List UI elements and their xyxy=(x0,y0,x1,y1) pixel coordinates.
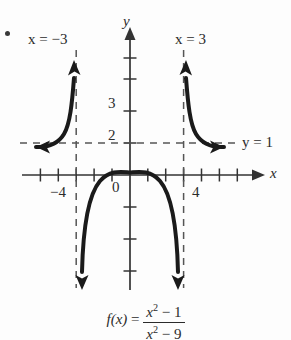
label-ytick-2: 2 xyxy=(108,128,116,143)
denominator-exponent: 2 xyxy=(153,324,158,335)
label-origin: 0 xyxy=(112,180,120,195)
graph-canvas xyxy=(0,0,291,340)
denominator-tail: − 9 xyxy=(162,326,182,340)
curve-right-branch xyxy=(180,60,225,154)
label-vertical-asymptote-left: x = −3 xyxy=(28,32,67,47)
formula-lhs: f(x) xyxy=(106,311,127,327)
denominator-variable: x xyxy=(146,326,153,340)
numerator-variable: x xyxy=(146,304,153,320)
rational-function-figure: x = −3 x = 3 y = 1 y x 0 3 2 −4 4 f(x) =… xyxy=(0,0,291,340)
numerator-exponent: 2 xyxy=(153,302,158,313)
y-axis xyxy=(125,27,136,290)
numerator-tail: − 1 xyxy=(162,304,182,320)
curve-left-branch xyxy=(36,60,81,154)
label-vertical-asymptote-right: x = 3 xyxy=(175,32,206,47)
formula-equals: = xyxy=(131,311,139,327)
formula-numerator: x2 − 1 xyxy=(143,302,184,323)
formula-fraction: x2 − 1 x2 − 9 xyxy=(143,302,184,340)
formula-denominator: x2 − 9 xyxy=(143,323,184,340)
label-x-axis: x xyxy=(270,166,277,181)
label-xtick-4: 4 xyxy=(192,185,200,200)
label-horizontal-asymptote: y = 1 xyxy=(242,135,273,150)
label-xtick-neg4: −4 xyxy=(50,185,66,200)
function-formula: f(x) = x2 − 1 x2 − 9 xyxy=(0,300,291,340)
label-ytick-3: 3 xyxy=(108,96,116,111)
label-y-axis: y xyxy=(123,14,130,29)
